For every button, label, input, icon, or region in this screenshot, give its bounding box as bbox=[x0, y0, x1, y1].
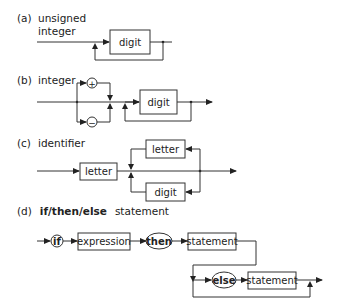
node-statement-else-label: statement bbox=[246, 275, 298, 286]
branch-plus-line bbox=[77, 83, 86, 102]
diagram-b-title: integer bbox=[38, 74, 76, 86]
node-digit-label: digit bbox=[147, 97, 169, 108]
node-statement-then-label: statement bbox=[186, 236, 238, 247]
branch-plus-return bbox=[97, 83, 110, 100]
terminal-plus-label: + bbox=[88, 79, 96, 89]
keyword-then-label: then bbox=[146, 236, 172, 247]
diagram-d-title-keywords: if/then/else bbox=[40, 205, 107, 217]
arrow-up-icon bbox=[122, 103, 128, 109]
terminal-minus-label: − bbox=[88, 118, 96, 128]
node-letter-loop-label: letter bbox=[152, 144, 180, 155]
keyword-else-label: else bbox=[213, 275, 236, 286]
diagram-unsigned-integer: (a) unsigned integer digit bbox=[17, 12, 172, 60]
branch-minus-return bbox=[97, 104, 110, 122]
diagram-a-tag: (a) bbox=[17, 12, 32, 24]
keyword-if-label: if bbox=[53, 236, 61, 247]
diagram-identifier: (c) identifier letter letter digit bbox=[17, 137, 236, 201]
branch-minus-line bbox=[77, 102, 86, 122]
syntax-diagrams: (a) unsigned integer digit (b) integer +… bbox=[0, 0, 340, 308]
diagram-integer: (b) integer + − digit bbox=[17, 74, 212, 128]
diagram-d-title-rest: statement bbox=[115, 205, 169, 217]
loop-letter-return bbox=[131, 149, 146, 169]
arrow-up-icon bbox=[107, 103, 113, 109]
diagram-d-title: (d) if/then/else statement bbox=[17, 201, 169, 218]
diagram-c-title: identifier bbox=[38, 137, 86, 149]
diagram-d-tag: (d) bbox=[17, 205, 32, 217]
loop-letter-line bbox=[186, 149, 200, 171]
diagram-a-title-line1: unsigned bbox=[38, 12, 86, 24]
arrow-down-icon bbox=[190, 276, 196, 282]
arrow-down-icon bbox=[107, 95, 113, 101]
node-letter-label: letter bbox=[85, 166, 113, 177]
diagram-if-then-else: (d) if/then/else statement if expression… bbox=[17, 201, 322, 297]
diagram-c-tag: (c) bbox=[17, 137, 31, 149]
diagram-a-title-line2: integer bbox=[38, 25, 76, 37]
diagram-b-tag: (b) bbox=[17, 74, 32, 86]
loop-digit-line bbox=[186, 171, 200, 192]
node-expression-label: expression bbox=[77, 236, 131, 247]
arrow-up-icon bbox=[128, 172, 134, 178]
arrow-up-icon bbox=[92, 43, 98, 49]
arrow-down-icon bbox=[128, 164, 134, 170]
node-digit-label: digit bbox=[119, 37, 141, 48]
arrow-up-icon bbox=[307, 281, 313, 287]
loop-digit-return bbox=[131, 173, 146, 192]
node-digit-loop-label: digit bbox=[154, 187, 176, 198]
